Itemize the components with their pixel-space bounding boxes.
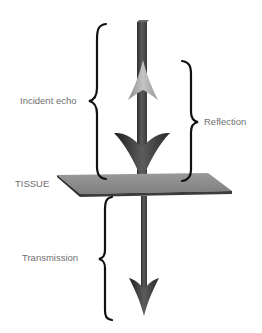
incident-echo-brace: [89, 24, 106, 179]
tissue-label: TISSUE: [15, 178, 49, 189]
transmission-label: Transmission: [22, 252, 78, 263]
shaft-top-face: [137, 20, 149, 22]
ultrasound-reflection-diagram: [0, 0, 262, 333]
transmission-brace: [99, 197, 112, 320]
transmission-shaft: [141, 196, 147, 291]
reflection-brace: [182, 61, 198, 181]
incident-echo-label: Incident echo: [20, 95, 77, 106]
reflection-label: Reflection: [204, 116, 246, 127]
tissue-plane: [57, 173, 232, 194]
